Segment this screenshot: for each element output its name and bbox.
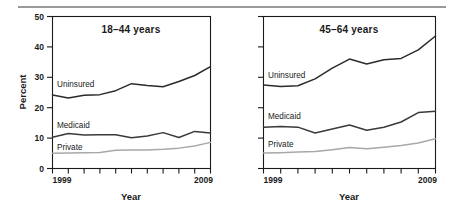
panel-left-y-axis-title: Percent [17, 74, 28, 110]
panel-left-label-private: Private [57, 143, 83, 152]
y-tick-label-30: 30 [35, 72, 45, 82]
y-tick-label-0: 0 [39, 164, 44, 174]
panel-right-y-ticks [258, 17, 264, 169]
panel-left-series-medicaid [53, 131, 211, 137]
figure-container: 50 40 30 20 10 0 1999 2009 [0, 0, 457, 213]
panel-left-label-medicaid: Medicaid [57, 121, 90, 130]
panel-right-label-uninsured: Uninsured [268, 71, 306, 80]
panel-right-x-end-label: 2009 [418, 175, 437, 185]
y-tick-label-50: 50 [35, 12, 45, 22]
panel-left-x-ticks [53, 169, 211, 174]
panel-right-title: 45–64 years [320, 24, 379, 35]
y-tick-label-40: 40 [35, 42, 45, 52]
panel-left-x-start-label: 1999 [53, 175, 72, 185]
top-divider-rule [18, 6, 446, 8]
panel-left-x-end-label: 2009 [194, 175, 213, 185]
panel-right: 1999 2009 45–64 years Year Uninsured Med… [258, 17, 437, 203]
panel-right-label-private: Private [268, 140, 294, 149]
panel-left-y-ticks [47, 17, 53, 169]
panel-right-x-ticks [264, 169, 436, 174]
panel-right-x-start-label: 1999 [264, 175, 283, 185]
y-tick-label-10: 10 [35, 133, 45, 143]
panel-right-x-axis-title: Year [339, 191, 359, 202]
panel-left: 50 40 30 20 10 0 1999 2009 [17, 12, 213, 203]
panel-right-label-medicaid: Medicaid [268, 112, 301, 121]
panel-left-x-axis-title: Year [121, 191, 141, 202]
panel-left-label-uninsured: Uninsured [57, 80, 95, 89]
panel-left-title: 18–44 years [102, 24, 161, 35]
dual-line-chart: 50 40 30 20 10 0 1999 2009 [0, 0, 457, 213]
panel-left-y-tick-labels: 50 40 30 20 10 0 [35, 12, 45, 174]
y-tick-label-20: 20 [35, 103, 45, 113]
